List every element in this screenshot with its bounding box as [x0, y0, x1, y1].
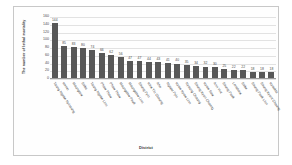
bar-item[interactable]: 32 [201, 17, 210, 79]
bar[interactable] [61, 46, 67, 79]
x-tick-slot: Taung Ngoke Nyinaung [50, 81, 59, 141]
x-tick-slot: Saung Pauk [220, 81, 229, 141]
bar-item[interactable]: 83 [69, 17, 78, 79]
bar-item[interactable]: 62 [107, 17, 116, 79]
chart-frame: The number of lethal mortality 160140120… [13, 6, 279, 156]
y-tick-label: 100 [43, 38, 49, 42]
bar-item[interactable]: 85 [59, 17, 68, 79]
x-tick-slot: Aho [154, 81, 163, 141]
bar-item[interactable]: 47 [125, 17, 134, 79]
bar-item[interactable]: 18 [248, 17, 257, 79]
bar-series: 1448583807466625647474443414035343230252… [50, 17, 276, 79]
bar-item[interactable]: 43 [154, 17, 163, 79]
y-tick-label: 160 [43, 15, 49, 19]
x-tick-label: Aho [155, 82, 161, 89]
bar-value-label: 43 [156, 58, 160, 61]
bar[interactable] [99, 53, 105, 79]
bar-value-label: 80 [81, 44, 85, 47]
x-tick-slot: Nyaung Chaung [182, 81, 191, 141]
bar-value-label: 66 [100, 49, 104, 52]
x-tick-slot: Ngapu Pyin [163, 81, 172, 141]
x-tick-slot: Saung Pyin [135, 81, 144, 141]
bar-item[interactable]: 47 [135, 17, 144, 79]
x-tick-slot: Taung Ngoke Linn [88, 81, 97, 141]
bar-value-label: 62 [109, 51, 113, 54]
bar[interactable] [71, 47, 77, 79]
bar[interactable] [127, 61, 133, 79]
bar-item[interactable]: 41 [163, 17, 172, 79]
y-tick-label: 60 [45, 54, 49, 58]
bar[interactable] [89, 50, 95, 79]
y-tick-label: 120 [43, 31, 49, 35]
bar-item[interactable]: 66 [97, 17, 106, 79]
bar-value-label: 30 [213, 63, 217, 66]
bar-value-label: 47 [128, 57, 132, 60]
x-axis-line [50, 78, 276, 79]
bar[interactable] [165, 63, 171, 79]
bar-item[interactable]: 35 [182, 17, 191, 79]
bar-item[interactable]: 40 [172, 17, 181, 79]
bar[interactable] [108, 55, 114, 79]
bar-value-label: 32 [204, 62, 208, 65]
bar-item[interactable]: 22 [229, 17, 238, 79]
bar[interactable] [137, 61, 143, 79]
bar-item[interactable]: 144 [50, 17, 59, 79]
y-tick-label: 80 [45, 46, 49, 50]
x-tick-slot: Maungtaw [69, 81, 78, 141]
y-axis-tick-labels: 160140120100806040200 [34, 17, 49, 79]
bar-value-label: 44 [147, 58, 151, 61]
y-tick-label: 140 [43, 23, 49, 27]
bar-value-label: 22 [241, 66, 245, 69]
bar-value-label: 35 [185, 61, 189, 64]
y-tick-label: 40 [45, 62, 49, 66]
x-tick-label: Kyaukta [269, 82, 279, 94]
bar[interactable] [52, 23, 58, 79]
bar-item[interactable]: 44 [144, 17, 153, 79]
y-tick-label: 0 [47, 77, 49, 81]
x-tick-slot: Saba [78, 81, 87, 141]
x-tick-slot: Kaw Yin Chaung [144, 81, 153, 141]
bar-item[interactable]: 80 [78, 17, 87, 79]
x-tick-slot: Lonkhaw [229, 81, 238, 141]
bar-item[interactable]: 25 [220, 17, 229, 79]
bar-item[interactable]: 18 [267, 17, 276, 79]
gridline [50, 79, 276, 80]
bar-value-label: 34 [194, 62, 198, 65]
bar[interactable] [155, 62, 161, 79]
bar-value-label: 18 [260, 68, 264, 71]
bar-item[interactable]: 18 [257, 17, 266, 79]
bar-value-label: 18 [270, 68, 274, 71]
bar-item[interactable]: 56 [116, 17, 125, 79]
bar-item[interactable]: 74 [88, 17, 97, 79]
x-tick-slot: Kemo [59, 81, 68, 141]
bar[interactable] [146, 62, 152, 79]
x-axis-category-labels: Taung Ngoke NyinaungKemoMaungtawSabaTaun… [50, 81, 276, 141]
x-tick-slot: Kyaw Saw [201, 81, 210, 141]
bar-value-label: 18 [251, 68, 255, 71]
bar-item[interactable]: 30 [210, 17, 219, 79]
x-tick-slot: Phaw Thaw [97, 81, 106, 141]
x-tick-slot: Kyaw Kyaw Linn [172, 81, 181, 141]
x-tick-slot: Ann Yint [210, 81, 219, 141]
bar[interactable] [184, 65, 190, 79]
x-tick-slot: Maungdaw Linn [125, 81, 134, 141]
y-axis-title: The number of lethal mortality [23, 9, 27, 85]
x-tick-slot: Maungdaw Pauk [116, 81, 125, 141]
plot-area: 1448583807466625647474443414035343230252… [50, 17, 276, 79]
bar[interactable] [80, 48, 86, 79]
y-tick-label: 20 [45, 69, 49, 73]
bar[interactable] [174, 64, 180, 80]
x-axis-title: District [14, 146, 278, 150]
x-tick-slot: Phaw Thaw [107, 81, 116, 141]
bar-value-label: 41 [166, 59, 170, 62]
bar-value-label: 74 [91, 46, 95, 49]
bar-value-label: 40 [175, 59, 179, 62]
bar[interactable] [118, 57, 124, 79]
bar-item[interactable]: 22 [238, 17, 247, 79]
x-tick-slot: Sabe [238, 81, 247, 141]
bar-value-label: 25 [222, 65, 226, 68]
x-tick-label: Sabe [240, 82, 247, 91]
x-tick-label: Saba [80, 82, 87, 91]
bar-item[interactable]: 34 [191, 17, 200, 79]
bar-value-label: 47 [138, 57, 142, 60]
